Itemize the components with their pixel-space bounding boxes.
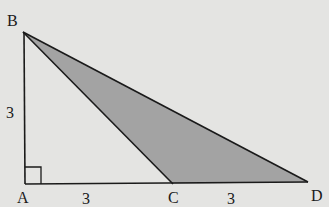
length-label-ac: 3: [82, 190, 90, 207]
length-label-cd: 3: [227, 190, 235, 207]
segment-ab: [24, 32, 25, 184]
segment-ad: [25, 182, 308, 184]
point-label-d: D: [311, 187, 323, 204]
point-label-c: C: [168, 189, 179, 206]
triangle-diagram: B A C D 3 3 3: [0, 0, 329, 207]
length-label-ab: 3: [6, 104, 14, 121]
right-angle-marker: [25, 167, 41, 184]
point-label-b: B: [7, 12, 18, 29]
point-label-a: A: [17, 189, 29, 206]
